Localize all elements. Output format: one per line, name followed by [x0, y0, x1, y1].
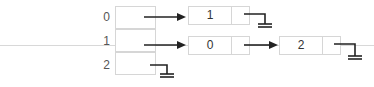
arrow-icon — [144, 13, 186, 21]
ground-icon — [334, 44, 362, 59]
arrow-icon — [144, 41, 186, 49]
connectors — [0, 0, 374, 87]
ground-icon — [150, 65, 174, 77]
arrow-icon — [244, 41, 278, 49]
ground-icon — [244, 14, 272, 27]
